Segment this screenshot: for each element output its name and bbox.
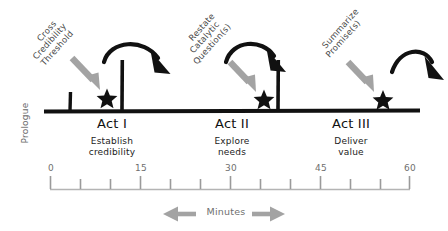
tick-label-60: 60 (395, 163, 425, 173)
milestone-star-1 (97, 89, 118, 109)
act-1-subtitle: Establish credibility (52, 136, 172, 158)
tick-label-30: 30 (216, 163, 246, 173)
prologue-label: Prologue (20, 93, 30, 153)
prologue-divider-bar (70, 92, 71, 111)
act-1-title: Act I (52, 117, 172, 132)
act-3-subtitle: Deliver value (291, 136, 411, 158)
milestone-star-3 (373, 90, 394, 110)
act-3-title: Act III (291, 117, 411, 132)
gray-pointer-arrow-1 (72, 58, 100, 90)
timeline-baseline (44, 111, 420, 112)
minute-ruler (50, 176, 410, 190)
tick-label-0: 0 (36, 163, 66, 173)
tick-label-15: 15 (126, 163, 156, 173)
minutes-left-arrow (163, 207, 196, 222)
axis-unit-label: Minutes (200, 207, 252, 218)
arc-arrow-3 (392, 52, 444, 80)
diagram-canvas: Prologue Cross Credibility Threshold Res… (0, 0, 448, 231)
gray-pointer-arrow-3 (348, 62, 374, 92)
milestone-star-2 (254, 90, 275, 110)
tick-label-45: 45 (306, 163, 336, 173)
minutes-right-arrow (252, 207, 285, 222)
gray-pointer-arrow-2 (230, 62, 256, 92)
act-2-title: Act II (172, 117, 292, 132)
act-2-subtitle: Explore needs (172, 136, 292, 158)
